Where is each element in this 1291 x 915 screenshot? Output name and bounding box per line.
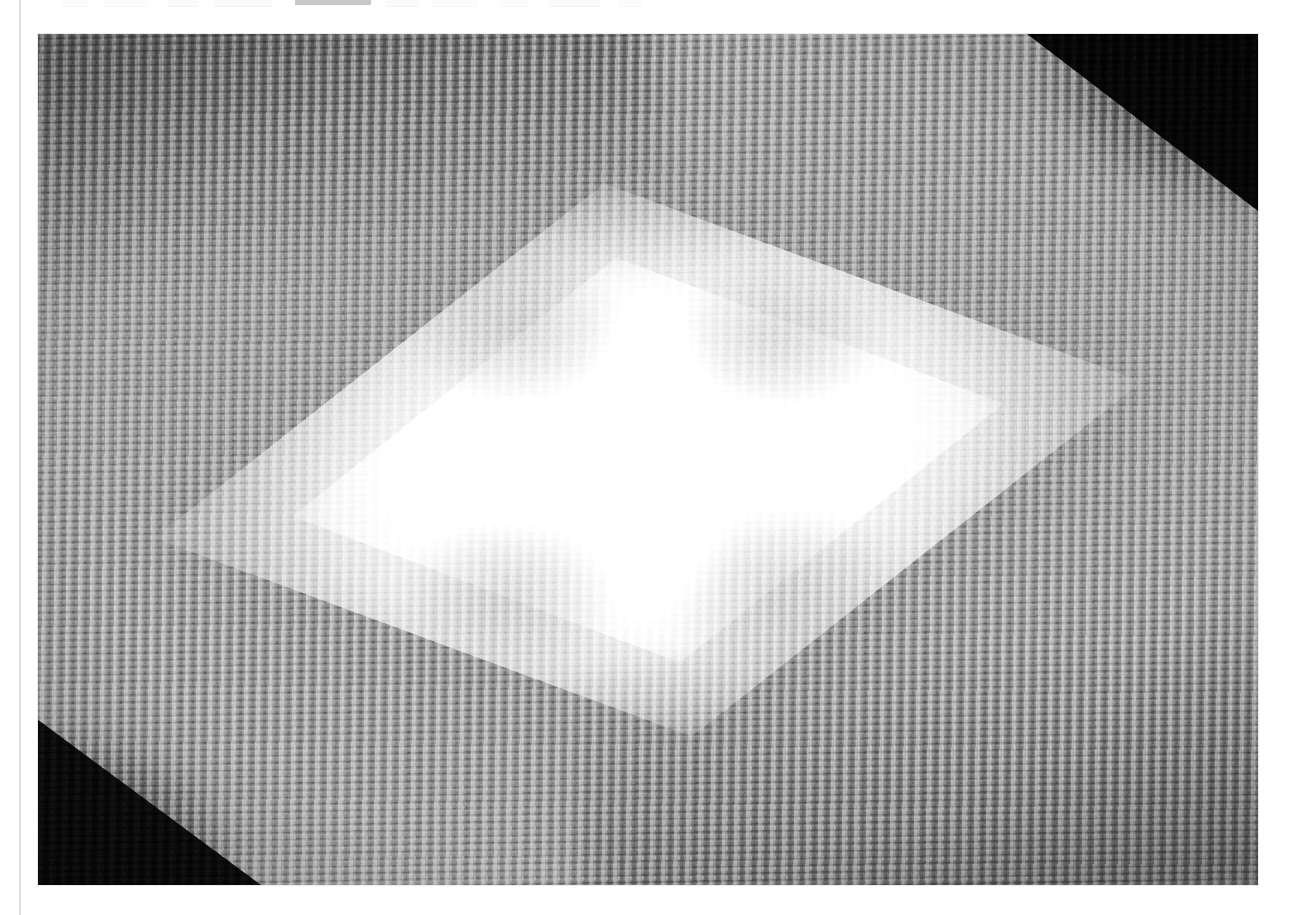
toolbar-item-3[interactable] — [168, 0, 198, 7]
toolbar-item-6[interactable] — [432, 0, 478, 7]
toolbar-item-8[interactable] — [548, 0, 600, 7]
toolbar-item-1[interactable] — [62, 0, 88, 7]
document-page: Grayscale photograph of stockinette-stit… — [0, 0, 1291, 915]
knitted-fabric-photograph: Grayscale photograph of stockinette-stit… — [38, 34, 1258, 885]
toolbar-item-7[interactable] — [500, 0, 528, 7]
left-margin-rule — [19, 0, 21, 915]
photo-vignette — [38, 34, 1258, 885]
cut-off-toolbar — [0, 0, 1291, 7]
toolbar-item-2[interactable] — [104, 0, 148, 7]
toolbar-item-4[interactable] — [214, 0, 272, 7]
toolbar-item-5[interactable] — [386, 0, 420, 7]
toolbar-item-9[interactable] — [618, 0, 642, 7]
toolbar-item-selected[interactable] — [295, 0, 371, 5]
